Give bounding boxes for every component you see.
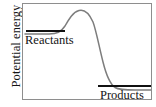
reactants-level-group: Reactants [25, 30, 77, 47]
products-level-group: Products [98, 85, 152, 100]
plot-frame: Reactants Products [22, 3, 152, 100]
reaction-energy-profile-diagram: Potential energy Reactants Products [0, 0, 156, 107]
reactants-level-line [26, 30, 65, 32]
products-level-line [98, 85, 151, 87]
reactants-label: Reactants [25, 33, 77, 47]
products-label: Products [100, 88, 152, 100]
